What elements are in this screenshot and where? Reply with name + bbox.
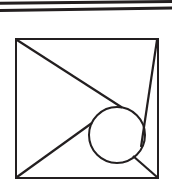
figure-root (0, 0, 172, 191)
upper-rule (0, 2, 172, 4)
figure-background (0, 0, 172, 191)
geometric-line-drawing (0, 0, 172, 191)
